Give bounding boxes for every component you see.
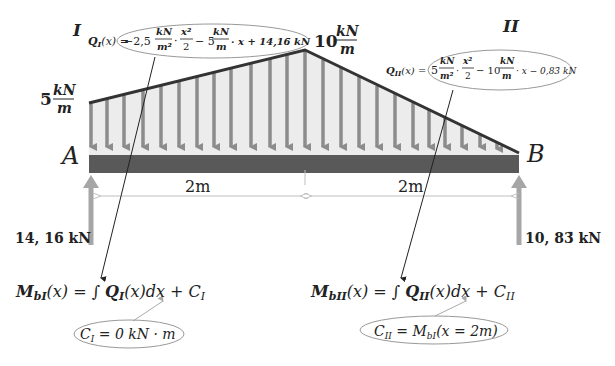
constant-c-i: CI = 0 kN · m [80, 326, 176, 344]
dimension-left: 2m [185, 177, 210, 196]
equation-m-bi: MbI(x) = ∫ QI(x)dx + CI [15, 282, 206, 303]
svg-text:kN: kN [500, 56, 515, 66]
svg-text:− 10: − 10 [476, 65, 500, 76]
svg-text:kN: kN [156, 26, 173, 37]
svg-text:m²: m² [157, 41, 173, 52]
svg-text:·: · [456, 65, 459, 76]
distributed-load [89, 50, 519, 155]
svg-text:kN: kN [53, 82, 77, 98]
svg-text:kN: kN [336, 23, 360, 39]
leader-c-i [133, 301, 163, 321]
svg-text:· x − 0,83̄ kN: · x − 0,83̄ kN [516, 66, 577, 76]
load-label-peak: 10 kN m [314, 23, 360, 57]
leader-c-ii [435, 301, 466, 316]
svg-text:· x + 14,16̄ kN: · x + 14,16̄ kN [231, 36, 311, 48]
equation-m-bii: MbII(x) = ∫ QII(x)dx + CII [310, 282, 515, 303]
dimension-lines [101, 170, 511, 196]
equation-q-ii: QII(x) = 5 kN m² · x² 2 − 10 kN m · x − … [386, 50, 577, 90]
segment-label-i: I [72, 20, 82, 40]
svg-text:2: 2 [465, 71, 471, 81]
svg-text:m: m [216, 41, 227, 52]
reaction-label-a: 14, 16̄ kN [15, 230, 91, 246]
svg-text:m: m [57, 100, 72, 116]
beam-diagram: A B 14, 16̄ kN 10, 83̄ kN 2m 2m I II 5 k… [0, 0, 615, 366]
svg-text:kN: kN [213, 26, 230, 37]
support-label-b: B [526, 140, 545, 168]
svg-text:m²: m² [440, 71, 454, 81]
svg-text:QII(x) =: QII(x) = [386, 65, 426, 78]
svg-text:− 5: − 5 [195, 35, 215, 48]
load-label-left: 5 kN m [40, 82, 77, 116]
svg-text:−2,5: −2,5 [124, 35, 151, 48]
constant-c-ii: CII = MbI(x = 2m) [374, 323, 498, 341]
svg-text:m: m [502, 71, 512, 81]
beam [89, 155, 519, 173]
svg-text:2: 2 [183, 41, 189, 52]
svg-text:m: m [340, 41, 355, 57]
svg-text:10: 10 [314, 31, 338, 51]
equation-q-i: QI(x) = −2,5 kN m² · x² 2 − 5 kN m · x +… [88, 24, 311, 58]
svg-text:kN: kN [440, 56, 455, 66]
reaction-label-b: 10, 83̄ kN [525, 230, 601, 246]
segment-label-ii: II [502, 16, 520, 36]
svg-text:5: 5 [431, 64, 438, 77]
support-label-a: A [60, 142, 79, 170]
dimension-right: 2m [398, 177, 423, 196]
svg-text:5: 5 [40, 89, 52, 109]
svg-text:x²: x² [462, 56, 472, 66]
svg-text:x²: x² [180, 26, 192, 37]
svg-text:·: · [174, 35, 178, 48]
